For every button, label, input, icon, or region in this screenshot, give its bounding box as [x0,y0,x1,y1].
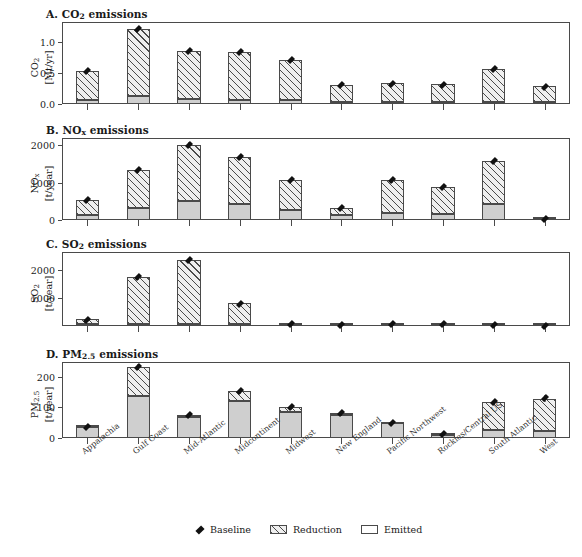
panel-title-B: B. NOx emissions [46,124,149,137]
bar-segment-emitted [177,417,200,438]
bar-B-3 [228,157,251,220]
x-tick-mark-C-1 [138,326,139,332]
y-tick-mark-B-1 [58,183,62,184]
bar-segment-emitted [177,201,200,220]
bar-segment-emitted [127,208,150,220]
y-tick-label-D-0: 0 [22,433,55,444]
y-tick-mark-B-0 [58,220,62,221]
bar-A-5 [330,85,353,104]
y-tick-label-A-0: 0.0 [22,99,55,110]
x-tick-mark-A-3 [240,104,241,110]
x-tick-mark-C-0 [87,326,88,332]
bar-segment-reduction [482,161,505,204]
bar-A-1 [127,29,150,104]
bar-segment-reduction [127,277,150,324]
x-tick-mark-B-3 [240,220,241,226]
y-tick-label-B-0: 0 [22,215,55,226]
bar-A-4 [279,60,302,104]
x-axis-label-9: West [538,437,559,456]
y-tick-label-D-1: 100 [22,402,55,413]
y-tick-label-C-0: 1000 [22,293,55,304]
bar-segment-reduction [177,145,200,201]
x-tick-mark-A-4 [291,104,292,110]
x-tick-mark-A-6 [392,104,393,110]
emissions-figure: A. CO2 emissionsCO2[Mt/yr]0.00.51.0B. NO… [0,0,582,557]
bar-segment-emitted [279,412,302,438]
bar-segment-emitted [381,213,404,220]
bar-C-1 [127,277,150,326]
y-tick-mark-D-1 [58,407,62,408]
y-tick-mark-D-2 [58,377,62,378]
y-tick-mark-C-1 [58,270,62,271]
bar-A-8 [482,69,505,104]
legend-item-reduction: Reduction [270,524,342,535]
x-tick-mark-B-7 [443,220,444,226]
reduction-hatch-icon [270,525,287,534]
bar-segment-emitted [279,210,302,220]
y-tick-label-B-1: 1000 [22,177,55,188]
y-tick-mark-A-2 [58,42,62,43]
x-tick-mark-A-2 [189,104,190,110]
bar-segment-reduction [228,157,251,203]
y-tick-label-B-2: 2000 [22,140,55,151]
emitted-box-icon [361,525,378,534]
x-tick-mark-B-0 [87,220,88,226]
x-tick-mark-C-3 [240,326,241,332]
x-tick-mark-B-1 [138,220,139,226]
bar-segment-reduction [127,29,150,96]
bar-segment-emitted [228,401,251,438]
bar-B-7 [431,187,454,220]
x-tick-mark-A-1 [138,104,139,110]
panel-title-D: D. PM2.5 emissions [46,348,158,361]
bar-B-2 [177,145,200,220]
bar-segment-reduction [177,51,200,99]
x-tick-mark-B-4 [291,220,292,226]
bar-B-1 [127,170,150,220]
bar-segment-reduction [482,69,505,101]
bar-segment-reduction [279,180,302,210]
bar-segment-reduction [533,399,556,431]
y-tick-mark-A-0 [58,104,62,105]
x-tick-mark-A-9 [545,104,546,110]
legend-label-baseline: Baseline [210,524,251,535]
x-tick-mark-B-6 [392,220,393,226]
y-tick-mark-C-0 [58,298,62,299]
bar-segment-emitted [228,204,251,220]
bar-segment-reduction [76,71,99,100]
legend-item-emitted: Emitted [361,524,422,535]
bar-segment-emitted [127,396,150,438]
bar-segment-reduction [177,260,200,325]
bar-segment-reduction [381,180,404,212]
x-tick-mark-A-8 [494,104,495,110]
bar-D-4 [279,407,302,438]
bar-B-6 [381,180,404,220]
bar-D-3 [228,391,251,438]
bar-segment-reduction [127,367,150,396]
x-tick-mark-A-0 [87,104,88,110]
bar-segment-emitted [330,415,353,438]
figure-legend: Baseline Reduction Emitted [196,524,422,535]
bar-segment-reduction [431,187,454,214]
y-tick-label-D-2: 200 [22,371,55,382]
bar-B-4 [279,180,302,220]
y-tick-mark-A-1 [58,73,62,74]
bar-B-8 [482,161,505,220]
bar-D-2 [177,415,200,438]
bar-D-5 [330,413,353,438]
x-tick-mark-B-2 [189,220,190,226]
x-tick-mark-B-5 [341,220,342,226]
bar-C-2 [177,260,200,326]
panel-title-A: A. CO2 emissions [46,8,148,21]
x-tick-mark-C-6 [392,326,393,332]
y-tick-label-A-2: 1.0 [22,36,55,47]
y-tick-label-A-1: 0.5 [22,67,55,78]
bar-D-1 [127,367,150,438]
bar-segment-emitted [127,96,150,104]
y-tick-label-C-1: 2000 [22,265,55,276]
bar-segment-reduction [127,170,150,207]
legend-item-baseline: Baseline [196,524,251,535]
x-tick-mark-A-5 [341,104,342,110]
bar-A-3 [228,52,251,104]
baseline-diamond-icon [195,525,204,534]
bar-segment-emitted [482,204,505,220]
